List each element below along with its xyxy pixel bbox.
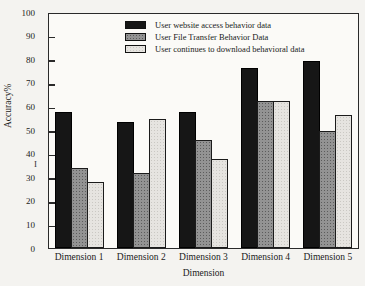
x-tick-label: Dimension 5	[303, 252, 352, 262]
y-tick-label: 50	[26, 126, 35, 137]
legend-label: User website access behavior data	[155, 20, 271, 30]
legend-label: User continues to download behavioral da…	[155, 44, 304, 54]
y-tick-mark	[49, 202, 55, 204]
legend-swatch-black	[125, 21, 146, 29]
legend: User website access behavior data User F…	[125, 20, 304, 54]
legend-item-file-transfer: User File Transfer Behavior Data	[125, 32, 304, 42]
legend-swatch-gray-hatched	[125, 33, 146, 41]
y-tick-label: 100	[22, 8, 36, 19]
y-tick-label: 80	[26, 55, 35, 66]
bar-group	[303, 14, 352, 248]
legend-label: User File Transfer Behavior Data	[155, 32, 268, 42]
bar	[71, 168, 88, 248]
y-tick-label: 60	[26, 102, 35, 113]
bar	[87, 182, 104, 248]
y-tick-label: 20	[26, 196, 35, 207]
plot-area: User website access behavior data User F…	[48, 13, 359, 249]
bar	[241, 68, 258, 248]
y-tick-label: 30	[26, 173, 35, 184]
y-axis-labels: 0102030405060708090100	[0, 13, 42, 249]
y-tick-mark	[49, 155, 55, 157]
bar-group	[55, 14, 104, 248]
bar	[55, 112, 72, 248]
stray-mark-artifact: I	[34, 159, 37, 169]
x-axis-labels: Dimension 1 Dimension 2 Dimension 3 Dime…	[48, 252, 359, 262]
y-tick-mark	[49, 37, 55, 39]
legend-item-website-access: User website access behavior data	[125, 20, 304, 30]
bar	[195, 140, 212, 248]
legend-item-download: User continues to download behavioral da…	[125, 44, 304, 54]
bar	[273, 101, 290, 248]
bar	[319, 131, 336, 248]
y-tick-label: 90	[26, 31, 35, 42]
y-tick-label: 70	[26, 78, 35, 89]
x-tick-label: Dimension 1	[55, 252, 104, 262]
y-tick-mark	[49, 84, 55, 86]
bar	[117, 122, 134, 248]
x-tick-label: Dimension 4	[241, 252, 290, 262]
bar	[211, 159, 228, 248]
legend-swatch-light-gray	[125, 45, 146, 53]
bar	[133, 173, 150, 248]
y-tick-mark	[49, 60, 55, 62]
y-tick-mark	[49, 108, 55, 110]
x-tick-label: Dimension 3	[179, 252, 228, 262]
y-tick-label: 10	[26, 220, 35, 231]
y-tick-mark	[49, 178, 55, 180]
y-tick-label: 0	[31, 244, 36, 255]
y-tick-mark	[49, 226, 55, 228]
x-tick-label: Dimension 2	[117, 252, 166, 262]
bar	[179, 112, 196, 248]
bar	[257, 101, 274, 248]
bar	[335, 115, 352, 248]
figure: 0102030405060708090100 I Accuracy% User …	[0, 0, 365, 286]
bar	[149, 119, 166, 248]
y-tick-mark	[49, 131, 55, 133]
x-axis-title: Dimension	[48, 268, 359, 278]
bar	[303, 61, 320, 248]
